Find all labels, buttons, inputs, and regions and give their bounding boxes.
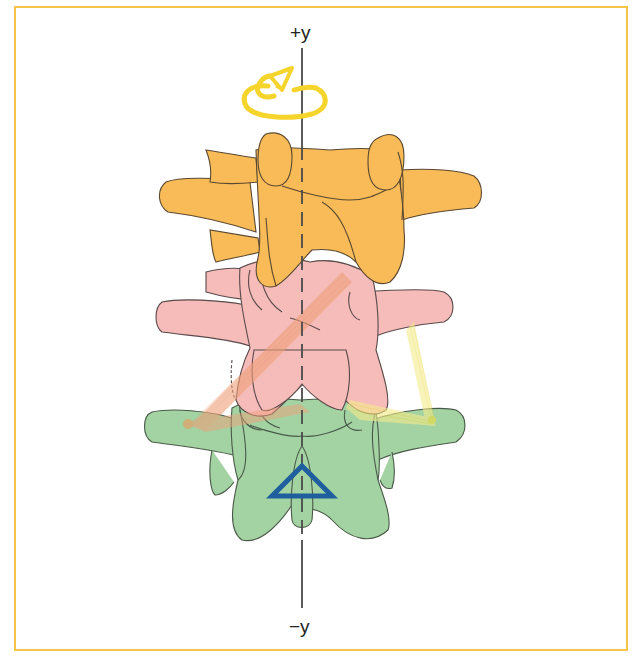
rotation-arrow-icon [244, 68, 325, 117]
vertebrae-diagram [0, 0, 636, 669]
axis-label-negative-y: −y [289, 616, 310, 638]
axis-label-positive-y: +y [290, 22, 311, 44]
